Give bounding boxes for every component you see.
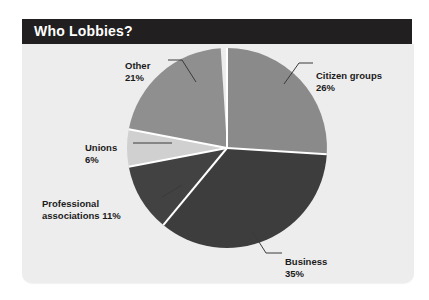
chart-title-banner: Who Lobbies?	[22, 19, 412, 44]
pie-chart-figure: Who Lobbies? Other 21% Citizen groups 26…	[0, 0, 429, 300]
slice-label-other: Other 21%	[125, 47, 150, 97]
slice-label-citizen-groups: Citizen groups 26%	[316, 57, 382, 107]
slice-label-citizen-groups-percent: 26%	[316, 82, 382, 95]
slice-label-business: Business 35%	[285, 243, 327, 293]
slice-label-professional-associations-line1: Professional	[42, 198, 99, 209]
slice-label-other-percent: 21%	[125, 72, 150, 85]
slice-label-business-name: Business	[285, 256, 327, 267]
slice-label-citizen-groups-name: Citizen groups	[316, 70, 382, 81]
slice-label-unions-name: Unions	[85, 142, 117, 153]
slice-label-professional-associations: Professional associations 11%	[42, 185, 157, 235]
slice-label-unions: Unions 6%	[85, 129, 117, 179]
slice-label-business-percent: 35%	[285, 268, 327, 281]
slice-label-other-name: Other	[125, 60, 150, 71]
slice-label-unions-percent: 6%	[85, 154, 117, 167]
slice-label-professional-associations-line2: associations 11%	[42, 210, 157, 223]
page-title: Who Lobbies?	[34, 23, 133, 39]
